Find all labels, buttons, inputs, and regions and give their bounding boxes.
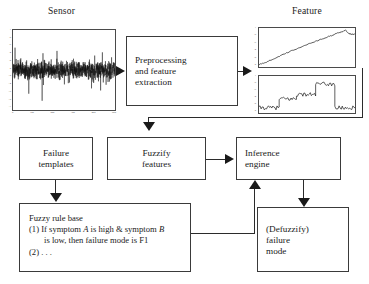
feature-trend-svg xyxy=(259,28,355,67)
preprocessing-box[interactable]: Preprocessing and feature extraction xyxy=(126,36,238,106)
rule-1-line-2: is low, then failure mode is F1 xyxy=(29,235,164,246)
failure-templates-box[interactable]: Failure templates xyxy=(19,137,93,180)
feature-staircase-plot xyxy=(258,75,356,114)
arrow-line-rulebase-right xyxy=(191,233,254,234)
rule-base-heading: Fuzzy rule base xyxy=(29,213,164,224)
arrow-sensor-to-preprocessing xyxy=(116,66,125,76)
preprocessing-box-label: Preprocessing and feature extraction xyxy=(135,55,187,88)
feature-trend-plot xyxy=(258,27,356,68)
sensor-plot-svg xyxy=(13,30,115,110)
rule-1-line-1: (1) If symptom A is high & symptom B xyxy=(29,224,164,235)
feature-staircase-yticks: 1.8.6.4.20 xyxy=(249,75,256,113)
arrow-line-rulebase-up xyxy=(254,188,255,234)
arrow-templates-to-rulebase xyxy=(50,193,62,202)
feature-trend-yticks: 1.8.6.4.20 xyxy=(249,27,256,67)
fuzzy-rule-base-box[interactable]: Fuzzy rule base (1) If symptom A is high… xyxy=(19,203,191,272)
diagram-canvas: Sensor Feature 1.8.6.4.20-.2-.4-.6-.8-1 … xyxy=(0,0,369,284)
sensor-plot-xticks: 0100200300400500 xyxy=(12,112,116,115)
fuzzy-rule-base-text: Fuzzy rule base (1) If symptom A is high… xyxy=(29,213,164,258)
feature-label: Feature xyxy=(292,6,322,16)
arrow-rulebase-to-inference xyxy=(249,180,261,189)
arrow-inference-to-defuzzify xyxy=(298,198,310,207)
fuzzify-features-box[interactable]: Fuzzify features xyxy=(107,137,206,180)
defuzzify-label: (Defuzzify) failure mode xyxy=(266,223,309,256)
arrow-fuzzify-to-inference xyxy=(225,154,234,164)
arrow-line-feature-left xyxy=(148,117,363,118)
inference-engine-box[interactable]: Inference engine xyxy=(236,137,341,180)
fuzzify-features-label: Fuzzify features xyxy=(108,148,205,170)
inference-engine-label: Inference engine xyxy=(245,148,280,170)
failure-templates-label: Failure templates xyxy=(20,148,92,170)
defuzzify-box[interactable]: (Defuzzify) failure mode xyxy=(257,207,349,272)
sensor-plot xyxy=(12,29,116,111)
arrow-feature-to-fuzzify xyxy=(143,122,155,131)
feature-staircase-svg xyxy=(259,76,355,113)
sensor-plot-yticks: 1.8.6.4.20-.2-.4-.6-.8-1 xyxy=(4,29,11,109)
rule-2: (2) . . . xyxy=(29,247,164,258)
symptom-b: B xyxy=(159,224,164,234)
arrow-line-feature-down xyxy=(362,68,363,117)
sensor-label: Sensor xyxy=(48,6,75,16)
